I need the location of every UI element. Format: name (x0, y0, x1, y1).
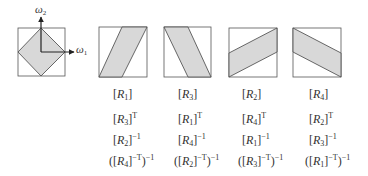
matrix-label: [R4] (309, 88, 328, 104)
matrix-label: [R2] (242, 88, 261, 104)
omega2-label: ω2 (35, 3, 46, 17)
matrix-label: [R4]T (242, 110, 266, 129)
matrix-label: [R3]−1 (309, 131, 337, 150)
matrix-label: [R3] (178, 88, 197, 104)
matrix-label: [R4]−1 (178, 131, 206, 150)
panel-4-diagram (293, 28, 341, 77)
matrix-label: [R1] (113, 88, 132, 104)
matrix-label: [R1]T (178, 110, 202, 129)
matrix-label: ([R1]−T)−1 (305, 152, 350, 171)
matrix-label: [R3]T (113, 110, 137, 129)
matrix-label: ([R4]−T)−1 (109, 152, 154, 171)
omega1-label: ω1 (76, 43, 87, 57)
reference-diagram (18, 17, 74, 76)
matrix-label: [R2]T (309, 110, 333, 129)
matrix-label: [R1]−1 (242, 131, 270, 150)
panel-1-diagram (99, 27, 147, 77)
matrix-label: [R2]−1 (113, 131, 141, 150)
panel-3-diagram (229, 28, 277, 77)
matrix-label: ([R2]−T)−1 (174, 152, 219, 171)
matrix-label: ([R3]−T)−1 (238, 152, 283, 171)
panel-2-diagram (164, 27, 211, 77)
